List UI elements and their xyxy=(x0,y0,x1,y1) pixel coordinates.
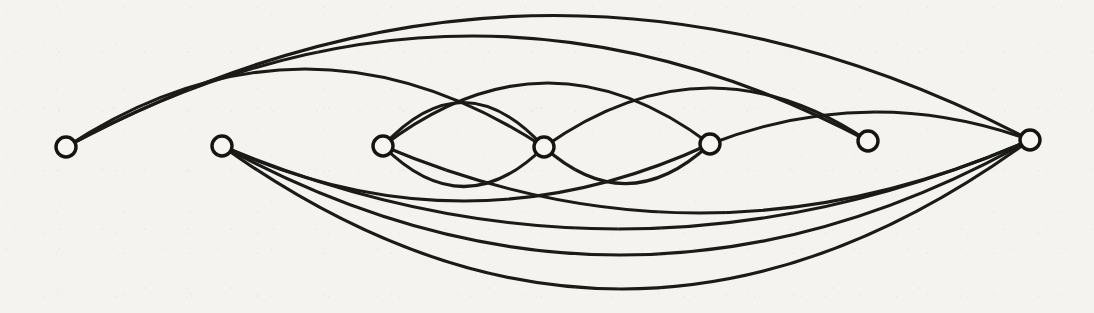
graph-vertex xyxy=(373,136,393,156)
vertex-layer xyxy=(56,130,1040,157)
graph-edge xyxy=(66,69,544,147)
graph-vertex xyxy=(858,131,878,151)
figure-canvas xyxy=(0,0,1094,313)
graph-edge xyxy=(222,140,1030,255)
graph-edge xyxy=(222,140,1030,289)
graph-vertex xyxy=(700,134,720,154)
graph-vertex xyxy=(1020,130,1040,150)
graph-vertex xyxy=(212,136,232,156)
graph-vertex xyxy=(534,137,554,157)
graph-vertex xyxy=(56,137,76,157)
graph-edge xyxy=(544,144,710,184)
graph-edge xyxy=(383,146,544,187)
arc-diagram-svg xyxy=(0,0,1094,313)
graph-edge xyxy=(383,102,544,147)
